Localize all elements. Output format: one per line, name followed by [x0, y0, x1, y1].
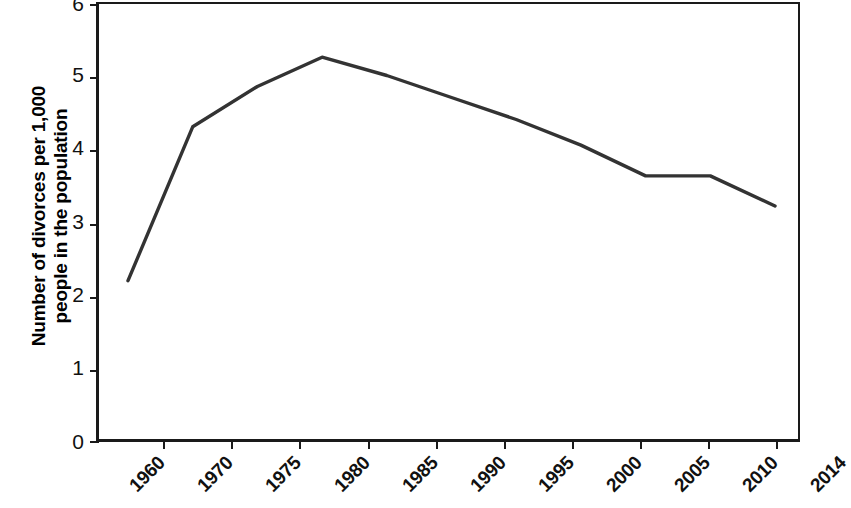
y-tick-label-2: 2 — [56, 283, 84, 307]
x-tick-label-2010: 2010 — [738, 452, 783, 497]
y-tick-0 — [90, 441, 99, 443]
y-tick-4 — [90, 150, 99, 152]
y-tick-label-5: 5 — [56, 63, 84, 87]
y-tick-2 — [90, 297, 99, 299]
x-tick-label-2000: 2000 — [602, 452, 647, 497]
y-tick-6 — [90, 4, 99, 6]
y-tick-5 — [90, 77, 99, 79]
x-tick-label-2005: 2005 — [670, 452, 715, 497]
x-tick-label-1980: 1980 — [330, 452, 375, 497]
x-axis-tick-labels: 1960 1970 1975 1980 1985 1990 1995 2000 … — [0, 446, 812, 508]
x-tick-label-1960: 1960 — [125, 452, 170, 497]
x-tick-label-1990: 1990 — [466, 452, 511, 497]
y-tick-3 — [90, 224, 99, 226]
x-tick-label-1995: 1995 — [534, 452, 579, 497]
y-tick-label-3: 3 — [56, 210, 84, 234]
x-tick-label-2014: 2014 — [806, 452, 851, 497]
y-tick-label-6: 6 — [56, 0, 84, 16]
y-tick-1 — [90, 370, 99, 372]
y-tick-label-1: 1 — [56, 356, 84, 380]
x-tick-label-1985: 1985 — [398, 452, 443, 497]
plot-area — [96, 2, 800, 442]
y-tick-label-4: 4 — [56, 136, 84, 160]
x-tick-label-1970: 1970 — [193, 452, 238, 497]
y-axis-tick-labels: 6 5 4 3 2 1 0 — [38, 0, 84, 508]
x-tick-label-1975: 1975 — [261, 452, 306, 497]
